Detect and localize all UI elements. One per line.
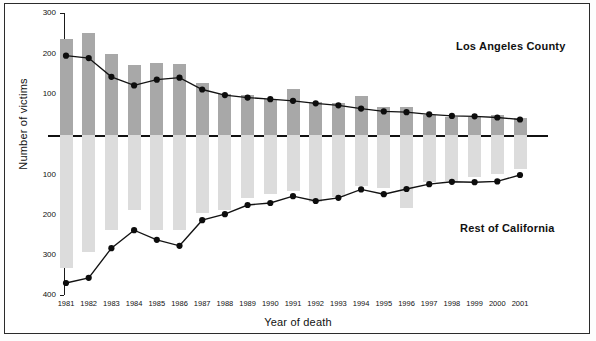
data-point-upper-1983 xyxy=(108,74,114,80)
data-point-lower-1988 xyxy=(222,211,228,217)
data-point-lower-1994 xyxy=(358,186,364,192)
data-point-lower-1981 xyxy=(63,280,69,286)
data-point-upper-1982 xyxy=(86,55,92,61)
data-point-lower-1997 xyxy=(426,181,432,187)
data-point-upper-1986 xyxy=(176,75,182,81)
data-point-lower-2001 xyxy=(517,172,523,178)
data-point-lower-1985 xyxy=(154,237,160,243)
data-point-upper-1997 xyxy=(426,111,432,117)
data-point-lower-1984 xyxy=(131,227,137,233)
data-point-upper-1981 xyxy=(63,53,69,59)
data-point-upper-2000 xyxy=(494,114,500,120)
data-point-upper-1990 xyxy=(267,96,273,102)
data-point-upper-1996 xyxy=(403,109,409,115)
data-point-lower-1982 xyxy=(86,275,92,281)
data-point-upper-1994 xyxy=(358,106,364,112)
data-point-lower-1991 xyxy=(290,193,296,199)
data-point-upper-1995 xyxy=(381,108,387,114)
data-point-upper-1989 xyxy=(245,95,251,101)
data-point-lower-1990 xyxy=(267,200,273,206)
data-point-lower-1996 xyxy=(403,186,409,192)
data-point-lower-1999 xyxy=(472,179,478,185)
data-point-lower-1992 xyxy=(313,198,319,204)
data-point-upper-1985 xyxy=(154,77,160,83)
data-point-upper-1987 xyxy=(199,86,205,92)
data-point-upper-1998 xyxy=(449,113,455,119)
data-point-upper-1984 xyxy=(131,82,137,88)
data-point-upper-1991 xyxy=(290,98,296,104)
data-point-lower-2000 xyxy=(494,178,500,184)
data-point-upper-1992 xyxy=(313,100,319,106)
chart-page: Number of victims Year of death Los Ange… xyxy=(0,0,596,341)
data-point-upper-1999 xyxy=(472,113,478,119)
data-point-lower-1995 xyxy=(381,191,387,197)
data-point-upper-1993 xyxy=(335,102,341,108)
data-point-lower-1993 xyxy=(335,195,341,201)
data-point-lower-1983 xyxy=(108,245,114,251)
data-point-lower-1986 xyxy=(176,243,182,249)
data-point-upper-2001 xyxy=(517,116,523,122)
plot-area: Number of victims Year of death Los Ange… xyxy=(0,0,596,341)
data-point-upper-1988 xyxy=(222,92,228,98)
line-series-layer xyxy=(0,0,596,341)
data-point-lower-1998 xyxy=(449,179,455,185)
data-point-lower-1987 xyxy=(199,217,205,223)
data-point-lower-1989 xyxy=(245,202,251,208)
